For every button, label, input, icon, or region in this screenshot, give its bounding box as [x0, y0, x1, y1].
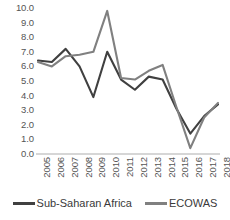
x-axis-tick-label: 2012 — [139, 157, 149, 178]
y-axis-tick-label: 6.0 — [21, 62, 34, 72]
x-axis: 2005200620072008200920102011201220132014… — [38, 157, 218, 191]
legend-label: ECOWAS — [169, 198, 218, 209]
chart-legend: Sub-Saharan AfricaECOWAS — [0, 192, 230, 214]
y-axis-tick-label: 8.0 — [21, 32, 34, 42]
series-line — [38, 11, 218, 148]
y-axis-tick-label: 2.0 — [21, 120, 34, 130]
y-axis-tick-label: 1.0 — [21, 135, 34, 145]
legend-line-swatch-icon — [13, 202, 35, 205]
x-axis-tick-label: 2017 — [208, 157, 218, 178]
y-axis-tick-label: 5.0 — [21, 76, 34, 86]
y-axis-tick-label: 4.0 — [21, 91, 34, 101]
legend-label: Sub-Saharan Africa — [37, 198, 132, 209]
x-axis-tick-label: 2015 — [180, 157, 190, 178]
x-axis-tick-label: 2014 — [167, 157, 177, 178]
x-axis-tick-label: 2007 — [70, 157, 80, 178]
x-axis-tick-label: 2010 — [111, 157, 121, 178]
x-axis-tick-label: 2006 — [56, 157, 66, 178]
y-axis-tick-label: 0.0 — [21, 149, 34, 159]
plot-area — [38, 8, 218, 154]
x-axis-tick-label: 2009 — [97, 157, 107, 178]
x-axis-tick-label: 2005 — [42, 157, 52, 178]
x-axis-tick-label: 2008 — [84, 157, 94, 178]
x-axis-tick-label: 2013 — [153, 157, 163, 178]
legend-item[interactable]: Sub-Saharan Africa — [13, 198, 132, 209]
legend-line-swatch-icon — [145, 202, 167, 205]
plot-svg — [38, 8, 218, 154]
line-chart: 10.09.08.07.06.05.04.03.02.01.00.0 20052… — [0, 0, 230, 220]
legend-item[interactable]: ECOWAS — [145, 198, 218, 209]
y-axis-tick-label: 9.0 — [21, 18, 34, 28]
y-axis-tick-label: 3.0 — [21, 105, 34, 115]
series-line — [38, 49, 218, 134]
x-axis-tick-label: 2016 — [194, 157, 204, 178]
x-axis-tick-label: 2018 — [222, 157, 230, 178]
x-axis-baseline — [36, 153, 220, 155]
y-axis-tick-label: 7.0 — [21, 47, 34, 57]
y-axis-tick-label: 10.0 — [16, 3, 34, 13]
x-axis-tick-label: 2011 — [125, 157, 135, 177]
y-axis: 10.09.08.07.06.05.04.03.02.01.00.0 — [0, 8, 36, 154]
